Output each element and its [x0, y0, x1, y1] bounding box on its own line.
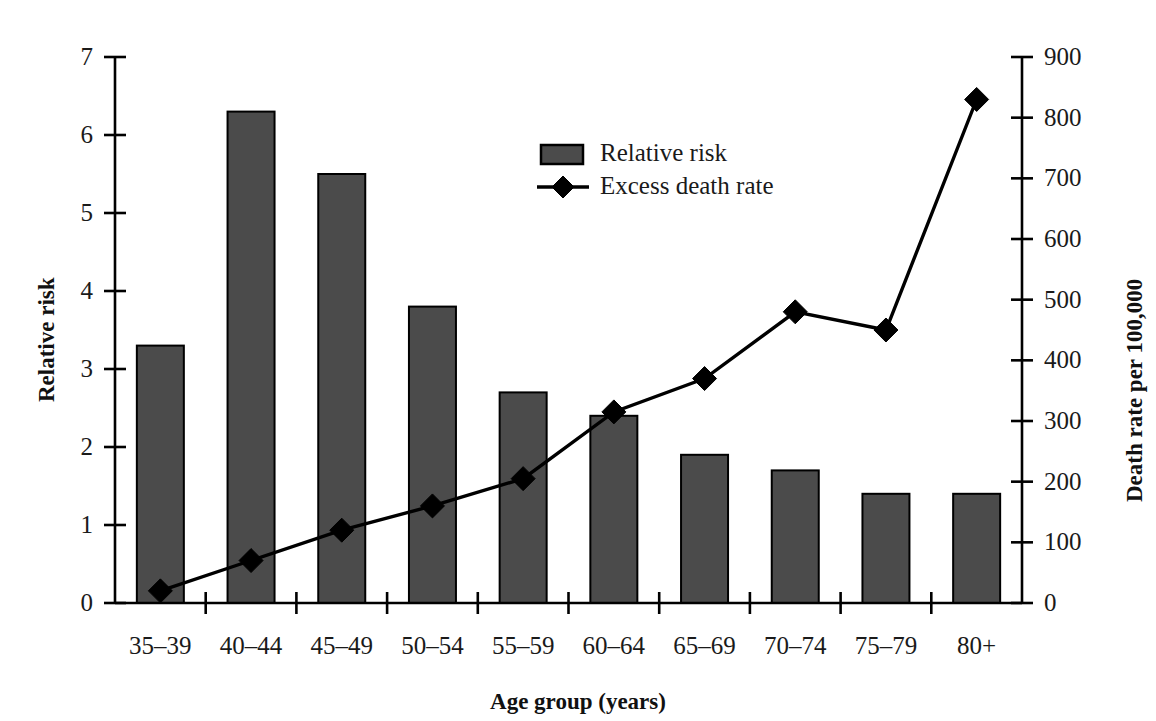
y-tick-label-right-200: 200	[1044, 469, 1082, 494]
y-tick-label-right-500: 500	[1044, 287, 1082, 312]
y-tick-label-left-7: 7	[81, 44, 94, 69]
y-axis-right-title: Death rate per 100,000	[1122, 279, 1148, 502]
bar-40-44	[228, 112, 275, 603]
bar-80+	[953, 494, 1000, 603]
y-tick-label-right-400: 400	[1044, 347, 1082, 372]
x-axis-title: Age group (years)	[0, 689, 1156, 715]
y-tick-label-right-100: 100	[1044, 529, 1082, 554]
y-tick-label-left-3: 3	[81, 356, 94, 381]
x-tick-label-9: 80+	[897, 633, 1057, 658]
legend-marker-diamond-icon	[552, 176, 574, 198]
y-tick-label-left-0: 0	[81, 590, 94, 615]
y-tick-label-right-0: 0	[1044, 590, 1057, 615]
bar-55-59	[500, 392, 547, 603]
y-axis-left-title: Relative risk	[34, 277, 60, 402]
data-point-80+	[965, 87, 989, 111]
y-tick-label-left-6: 6	[81, 122, 94, 147]
legend-swatch-relative-risk	[541, 145, 583, 164]
bar-65-69	[681, 455, 728, 603]
bar-50-54	[409, 307, 456, 603]
legend-label-relative-risk: Relative risk	[600, 140, 727, 165]
chart-figure: Relative risk Death rate per 100,000 Age…	[0, 0, 1156, 721]
y-tick-label-left-1: 1	[81, 512, 94, 537]
y-tick-label-right-600: 600	[1044, 226, 1082, 251]
y-tick-label-right-800: 800	[1044, 105, 1082, 130]
data-point-75-79	[874, 318, 898, 342]
data-point-70-74	[783, 300, 807, 324]
bar-70-74	[772, 470, 819, 603]
data-point-65-69	[693, 367, 717, 391]
chart-canvas	[0, 0, 1156, 721]
bar-75-79	[862, 494, 909, 603]
y-tick-label-right-900: 900	[1044, 44, 1082, 69]
excess-death-rate-line	[160, 100, 976, 591]
y-tick-label-left-5: 5	[81, 200, 94, 225]
legend-label-excess-death-rate: Excess death rate	[600, 173, 774, 198]
y-tick-label-left-4: 4	[81, 278, 94, 303]
y-tick-label-right-300: 300	[1044, 408, 1082, 433]
y-tick-label-left-2: 2	[81, 434, 94, 459]
bar-60-64	[590, 416, 637, 603]
bar-35-39	[137, 346, 184, 603]
y-tick-label-right-700: 700	[1044, 165, 1082, 190]
